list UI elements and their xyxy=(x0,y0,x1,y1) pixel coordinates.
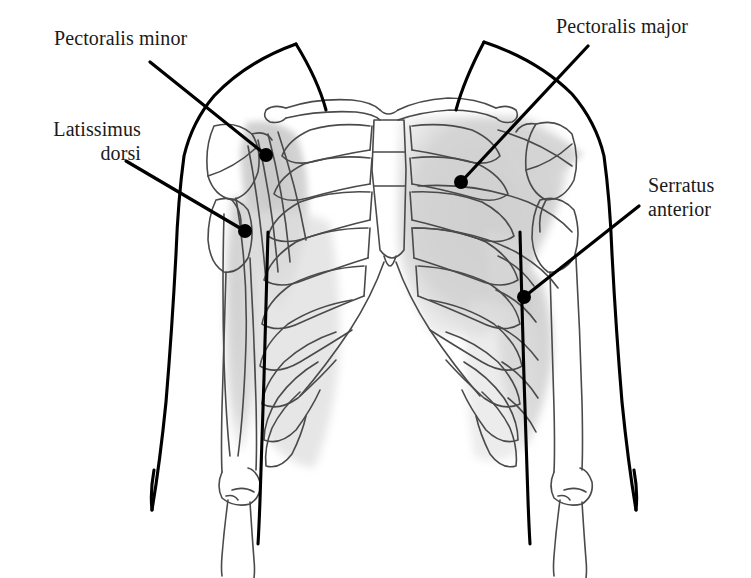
ulna-right xyxy=(582,502,587,578)
sternal-notch xyxy=(380,110,398,114)
clavicle-left-bone-lower xyxy=(286,112,380,120)
anatomy-illustration xyxy=(0,0,751,578)
humerus-right-shaft-lateral xyxy=(576,258,583,470)
radius-right xyxy=(554,500,561,576)
humerus-left-trochlea xyxy=(232,488,254,492)
radius-left xyxy=(222,500,229,576)
label-latissimus-dorsi-line2: dorsi xyxy=(101,142,142,164)
body-outline-neck-left xyxy=(296,44,326,110)
leader-latissimus-dorsi xyxy=(126,161,245,231)
leader-pectoralis-minor xyxy=(150,62,266,155)
label-serratus-anterior-line1: Serratus xyxy=(648,174,714,196)
humerus-right-trochlea xyxy=(564,488,586,492)
label-serratus-anterior-line2: anterior xyxy=(648,198,711,220)
clavicle-left-bone xyxy=(286,100,380,110)
anatomy-figure: Pectoralis minor Latissimusdorsi Pectora… xyxy=(0,0,751,578)
label-pectoralis-minor: Pectoralis minor xyxy=(54,27,187,51)
humerus-left-condyle xyxy=(219,468,260,505)
clavicle-right-bone xyxy=(398,98,496,110)
label-serratus-anterior: Serratusanterior xyxy=(648,174,714,221)
ulna-left xyxy=(250,502,255,578)
body-outline-group xyxy=(151,42,636,544)
dot-latissimus-dorsi xyxy=(238,224,252,238)
label-latissimus-dorsi-line1: Latissimus xyxy=(53,118,141,140)
label-pectoralis-major: Pectoralis major xyxy=(556,15,688,39)
dot-pectoralis-minor xyxy=(259,148,273,162)
dot-pectoralis-major xyxy=(454,175,468,189)
thorax-wash-left xyxy=(240,211,340,468)
humerus-right-condyle xyxy=(551,468,592,505)
label-latissimus-dorsi: Latissimusdorsi xyxy=(26,118,141,165)
clavicle-left-acromial-end xyxy=(265,106,286,122)
dot-serratus-anterior xyxy=(517,290,531,304)
